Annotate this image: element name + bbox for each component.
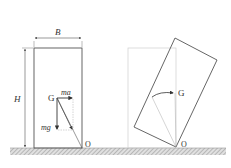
tipping-block xyxy=(128,38,217,148)
width-label: B xyxy=(55,27,61,37)
tilted-pivot-label: O xyxy=(181,140,187,149)
ground-hatch xyxy=(10,148,226,155)
height-label: H xyxy=(13,94,21,104)
ghost-outline xyxy=(128,48,176,148)
pivot-label: O xyxy=(85,140,91,149)
diagram-canvas: B H G ma mg O G O xyxy=(0,0,231,168)
inertial-force-label: ma xyxy=(61,88,71,97)
tilted-center-label: G xyxy=(178,88,185,98)
gravity-label: mg xyxy=(41,123,51,132)
rotation-arc-arrow xyxy=(152,93,173,98)
center-of-gravity-label: G xyxy=(48,93,55,103)
